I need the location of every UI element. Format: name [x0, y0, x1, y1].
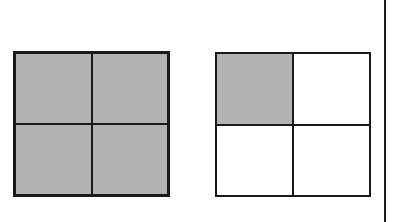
- grid-cell: [92, 124, 168, 194]
- vertical-divider-line: [384, 0, 386, 222]
- grid-cell: [217, 54, 293, 125]
- grid-cell: [293, 54, 369, 125]
- grid-cell: [16, 54, 92, 124]
- right-grid-one-quarter-shaded: [215, 52, 371, 197]
- left-grid-fully-shaded: [13, 51, 170, 197]
- grid-cell: [16, 124, 92, 194]
- grid-cell: [217, 125, 293, 196]
- grid-cell: [92, 54, 168, 124]
- grid-cell: [293, 125, 369, 196]
